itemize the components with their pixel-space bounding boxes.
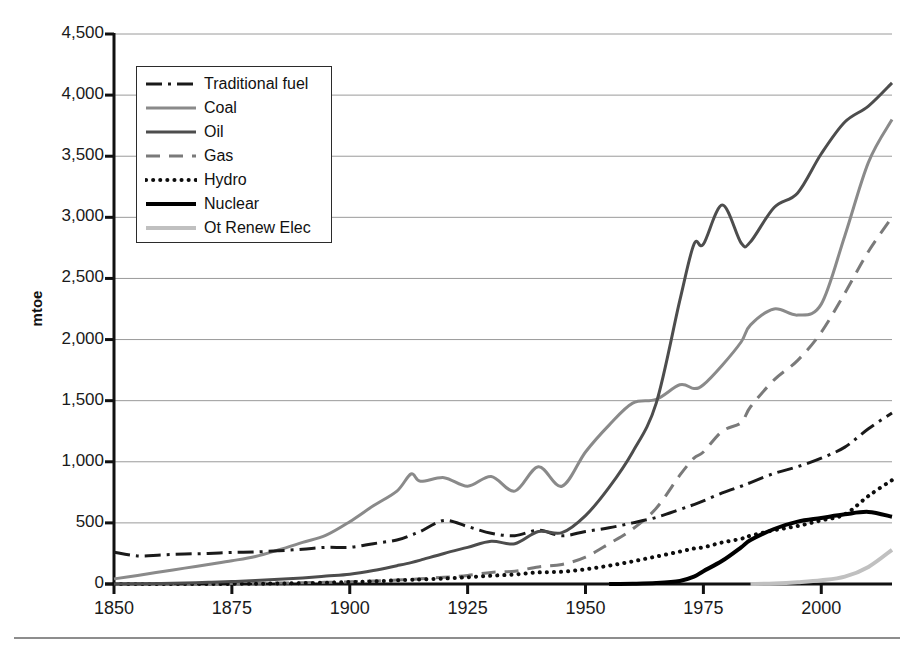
legend-label: Ot Renew Elec (204, 220, 311, 236)
legend-item: Coal (137, 96, 331, 120)
series-line-ot_renew_elec (751, 550, 892, 584)
legend-item: Oil (137, 120, 331, 144)
legend-item: Hydro (137, 168, 331, 192)
legend-swatch-solid-line (145, 125, 197, 139)
chart-legend: Traditional fuelCoalOilGasHydroNuclearOt… (136, 66, 332, 243)
legend-swatch-dashed-line (145, 149, 197, 163)
legend-label: Gas (204, 148, 233, 164)
legend-swatch-solid-line (145, 101, 197, 115)
footer-rule (14, 637, 900, 639)
legend-label: Oil (204, 124, 224, 140)
series-line-hydro (114, 480, 892, 584)
legend-swatch-dotted-line (145, 173, 197, 187)
chart-figure: mtoe 05001,0001,5002,0002,5003,0003,5004… (0, 0, 913, 648)
legend-item: Traditional fuel (137, 72, 331, 96)
legend-item: Ot Renew Elec (137, 216, 331, 240)
legend-label: Nuclear (204, 196, 259, 212)
legend-item: Nuclear (137, 192, 331, 216)
legend-label: Traditional fuel (204, 76, 308, 92)
legend-label: Hydro (204, 172, 247, 188)
legend-swatch-dash-dot-line (145, 77, 197, 91)
legend-swatch-solid-line (145, 221, 197, 235)
legend-swatch-solid-line (145, 197, 197, 211)
legend-label: Coal (204, 100, 237, 116)
legend-item: Gas (137, 144, 331, 168)
